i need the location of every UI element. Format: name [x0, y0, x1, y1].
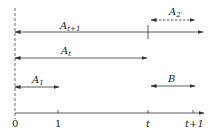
svg-text:At: At [60, 45, 71, 58]
svg-text:A2: A2 [168, 6, 181, 19]
interval-a-t-plus-1: At+1 [15, 20, 203, 39]
interval-a-2: A2 [151, 6, 195, 20]
tick-label-t-plus-1: t+1 [185, 118, 204, 129]
svg-text:A1: A1 [31, 74, 44, 87]
interval-a-t: At [15, 45, 147, 58]
a-t-label: A [60, 45, 68, 56]
interval-b: B [151, 73, 195, 86]
interval-a-1: A1 [15, 74, 59, 87]
a-2-label: A [168, 6, 176, 17]
svg-text:At+1: At+1 [59, 20, 80, 33]
tick-label-t: t [146, 118, 151, 129]
b-label: B [167, 73, 175, 84]
time-axis: 0 1 t t+1 [12, 110, 204, 129]
a-1-label: A [31, 74, 39, 85]
tick-label-1: 1 [55, 118, 61, 129]
tick-label-0: 0 [12, 118, 18, 129]
timeline-diagram: At+1 A2 At A1 B 0 1 t t+1 [0, 0, 210, 136]
a-t-plus-1-label: A [59, 20, 67, 31]
